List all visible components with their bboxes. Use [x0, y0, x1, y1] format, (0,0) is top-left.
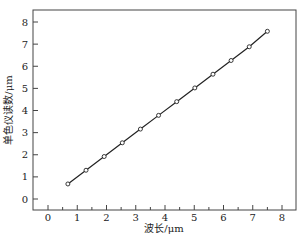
data-point	[229, 58, 233, 62]
y-axis: 012345678	[22, 17, 38, 205]
data-point	[138, 127, 142, 131]
x-axis: 012345678	[45, 205, 285, 223]
y-tick-label: 8	[22, 17, 28, 28]
data-point	[193, 86, 197, 90]
data-point	[157, 113, 161, 117]
x-tick-label: 1	[74, 212, 80, 223]
x-tick-label: 8	[279, 212, 285, 223]
y-tick-label: 5	[22, 83, 28, 94]
x-tick-label: 4	[162, 212, 168, 223]
data-point	[211, 72, 215, 76]
data-point	[265, 29, 269, 33]
y-tick-label: 0	[22, 194, 28, 205]
data-point	[120, 141, 124, 145]
data-point	[247, 45, 251, 49]
chart: 012345678 012345678 波长/μm 单色仪读数/μm	[0, 0, 304, 243]
y-tick-label: 1	[22, 171, 28, 182]
data-point	[84, 168, 88, 172]
data-point	[102, 155, 106, 159]
y-axis-label: 单色仪读数/μm	[2, 75, 14, 145]
data-line	[68, 31, 267, 184]
y-tick-label: 4	[22, 105, 28, 116]
data-point	[175, 100, 179, 104]
x-tick-label: 0	[45, 212, 51, 223]
x-axis-label: 波长/μm	[144, 222, 184, 234]
x-tick-label: 7	[250, 212, 256, 223]
data-point	[66, 182, 70, 186]
y-tick-label: 2	[22, 149, 28, 160]
x-tick-label: 2	[103, 212, 109, 223]
x-tick-label: 5	[191, 212, 197, 223]
x-tick-label: 3	[133, 212, 139, 223]
y-tick-label: 6	[22, 61, 28, 72]
x-tick-label: 6	[220, 212, 226, 223]
y-tick-label: 7	[22, 39, 28, 50]
y-tick-label: 3	[22, 127, 28, 138]
